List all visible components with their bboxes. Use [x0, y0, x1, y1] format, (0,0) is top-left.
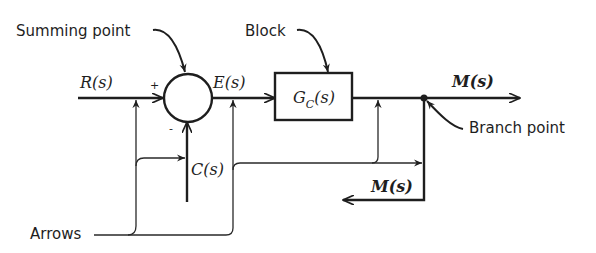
- arrows-pointer-feedback: [136, 158, 185, 166]
- branch-point-pointer: [427, 101, 463, 129]
- block-pointer: [297, 30, 328, 72]
- output-signal-label: M(s): [451, 72, 494, 91]
- arrows-pointer-input: [128, 100, 136, 235]
- plus-sign: +: [150, 79, 159, 92]
- summing-junction: [164, 74, 212, 122]
- branch-output-label: M(s): [370, 177, 413, 196]
- input-signal-label: R(s): [79, 73, 113, 92]
- block-diagram-canvas: R(s) + - E(s) GC(s) M(s) M(s) C(s) Summi…: [0, 0, 596, 253]
- arrows-annotation: Arrows: [30, 225, 81, 243]
- feedback-signal-label: C(s): [191, 160, 224, 179]
- summing-point-pointer: [153, 30, 185, 72]
- summing-point-annotation: Summing point: [16, 22, 131, 40]
- block-label: GC(s): [293, 88, 335, 111]
- minus-sign: -: [169, 122, 173, 135]
- branch-point-annotation: Branch point: [469, 119, 565, 137]
- error-signal-label: E(s): [212, 73, 245, 92]
- block-annotation: Block: [245, 22, 286, 40]
